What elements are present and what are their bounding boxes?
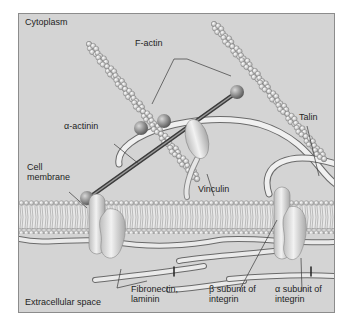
- beta-integrin-label-line2: integrin: [209, 294, 239, 304]
- alpha-actinin-label: α-actinin: [64, 121, 98, 131]
- integrin-right: [274, 187, 306, 260]
- cell-membrane-label-line1: Cell: [27, 162, 43, 172]
- fibronectin-label-line1: Fibronectin,: [131, 284, 178, 294]
- talin-label: Talin: [299, 112, 318, 122]
- focal-adhesion-diagram: Cytoplasm F-actin α-actinin Talin Cell m…: [18, 13, 335, 313]
- beta-integrin-label-line1: β subunit of: [209, 284, 256, 294]
- f-actin-filament-2: [211, 21, 326, 161]
- cell-membrane-label-line2: membrane: [27, 172, 70, 182]
- alpha-integrin-label-line1: α subunit of: [275, 284, 322, 294]
- f-actin-label: F-actin: [135, 38, 163, 48]
- fibronectin-label-line2: laminin: [131, 294, 160, 304]
- extracellular-space-label: Extracellular space: [25, 297, 101, 307]
- vinculin-label: Vinculin: [198, 184, 229, 194]
- alpha-integrin-label-line2: integrin: [275, 294, 305, 304]
- diagram-artwork: [19, 14, 335, 313]
- cytoplasm-label: Cytoplasm: [25, 17, 68, 27]
